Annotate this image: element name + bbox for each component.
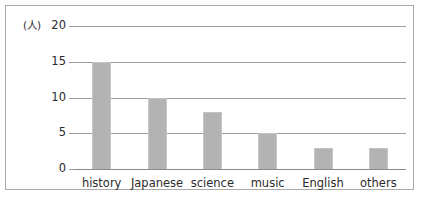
bar: [258, 133, 277, 169]
bar: [314, 148, 333, 169]
y-axis-tick-mark: [69, 26, 74, 27]
gridline: [74, 169, 406, 170]
bar: [148, 98, 167, 170]
y-axis-tick-label: 5: [59, 128, 66, 140]
x-axis-tick-label: others: [360, 178, 397, 190]
y-axis-unit-label: (人): [23, 20, 41, 31]
x-axis-tick-label: English: [302, 178, 344, 190]
bar: [203, 112, 222, 169]
y-axis-tick-mark: [69, 133, 74, 134]
y-axis-tick-mark: [69, 62, 74, 63]
x-axis-tick-label: Japanese: [131, 178, 183, 190]
chart-frame: (人) 05101520 historyJapanesesciencemusic…: [5, 5, 414, 190]
x-axis-tick-label: science: [191, 178, 234, 190]
y-axis-tick-label: 20: [51, 20, 66, 32]
y-axis-tick-label: 15: [51, 56, 66, 68]
x-axis-tick-label: history: [82, 178, 122, 190]
bar-chart-figure: (人) 05101520 historyJapanesesciencemusic…: [0, 0, 421, 197]
y-axis-tick-label: 10: [51, 92, 66, 104]
gridline: [74, 98, 406, 99]
x-axis-tick-label: music: [251, 178, 285, 190]
gridline: [74, 62, 406, 63]
y-axis-tick-mark: [69, 98, 74, 99]
bar: [369, 148, 388, 169]
gridline: [74, 133, 406, 134]
y-axis-tick-label: 0: [59, 163, 66, 175]
plot-area: 05101520: [74, 26, 406, 169]
gridline: [74, 26, 406, 27]
y-axis-tick-mark: [69, 169, 74, 170]
bar: [92, 62, 111, 169]
